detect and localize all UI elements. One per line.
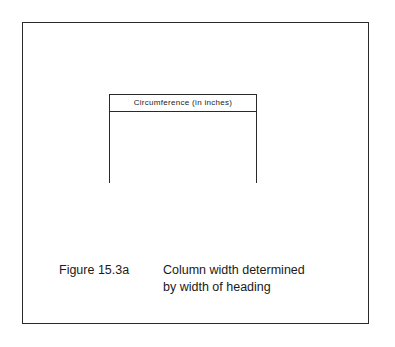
- column-table-illustration: Circumference (in inches): [109, 94, 257, 184]
- column-right-rule: [256, 111, 257, 183]
- figure-label: Figure 15.3a: [59, 262, 129, 279]
- figure-caption-text: Column width determined by width of head…: [163, 262, 353, 296]
- column-left-rule: [109, 111, 110, 183]
- caption-line-2: by width of heading: [163, 279, 353, 296]
- column-heading: Circumference (in inches): [109, 94, 257, 112]
- caption-line-1: Column width determined: [163, 262, 353, 279]
